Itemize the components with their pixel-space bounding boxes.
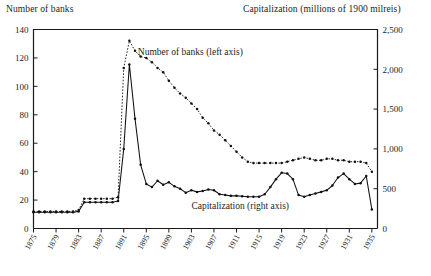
data-series-group (32, 40, 373, 214)
series-marker (213, 129, 216, 132)
series-marker (139, 164, 142, 167)
series-marker (247, 160, 250, 163)
series-marker (297, 158, 300, 161)
series-marker (156, 67, 159, 70)
right-tick-label: 1,500 (383, 104, 404, 114)
series-marker (218, 193, 221, 196)
series-marker (162, 183, 165, 186)
series-marker (77, 210, 80, 213)
series-marker (106, 201, 109, 204)
series-marker (106, 197, 109, 200)
series-marker (60, 211, 63, 214)
series-marker (292, 178, 295, 181)
series-annotation: Capitalization (right axis) (191, 201, 289, 212)
series-marker (156, 179, 159, 182)
right-tick-label: 1,000 (383, 144, 404, 154)
series-marker (303, 195, 306, 198)
series-marker (190, 102, 193, 105)
series-marker (100, 201, 103, 204)
series-marker (94, 197, 97, 200)
series-marker (309, 194, 312, 197)
series-marker (196, 191, 199, 194)
series-marker (224, 194, 227, 197)
series-marker (314, 159, 317, 162)
series-marker (185, 96, 188, 99)
series-marker (275, 162, 278, 165)
series-marker (196, 108, 199, 111)
x-tick-label: 1911 (226, 233, 242, 251)
series-marker (201, 190, 204, 193)
series-marker (168, 79, 171, 82)
series-marker (89, 201, 92, 204)
series-marker (263, 193, 266, 196)
right-tick-label: 500 (383, 184, 397, 194)
series-marker (252, 195, 255, 198)
series-marker (224, 139, 227, 142)
series-marker (190, 189, 193, 192)
series-marker (32, 211, 35, 214)
x-axis-ticks: 1875187918831887189118951899190319071911… (23, 229, 377, 252)
series-marker (326, 158, 329, 161)
x-tick-label: 1891 (113, 233, 129, 251)
series-marker (348, 178, 351, 181)
series-marker (292, 159, 295, 162)
series-line (34, 41, 372, 212)
left-axis-ticks: 020406080100120140 (15, 25, 38, 234)
series-marker (134, 50, 137, 53)
series-marker (331, 184, 334, 187)
series-marker (371, 208, 374, 211)
series-marker (38, 211, 41, 214)
series-marker (235, 150, 238, 153)
series-marker (342, 159, 345, 162)
series-marker (162, 71, 165, 74)
series-marker (337, 176, 340, 179)
left-tick-label: 120 (15, 53, 29, 63)
series-marker (122, 148, 125, 151)
series-marker (185, 191, 188, 194)
series-marker (320, 159, 323, 162)
series-marker (151, 186, 154, 189)
series-marker (258, 195, 261, 198)
x-tick-label: 1915 (249, 233, 265, 251)
series-marker (297, 194, 300, 197)
series-marker (263, 162, 266, 165)
series-marker (173, 87, 176, 90)
x-tick-label: 1887 (91, 233, 107, 251)
series-marker (179, 187, 182, 190)
x-tick-label: 1875 (23, 233, 39, 251)
series-marker (128, 40, 131, 43)
series-marker (365, 162, 368, 165)
series-marker (342, 172, 345, 175)
series-marker (280, 172, 283, 175)
series-marker (365, 175, 368, 178)
series-marker (173, 185, 176, 188)
left-tick-label: 20 (20, 195, 30, 205)
series-marker (111, 197, 114, 200)
series-marker (235, 195, 238, 198)
series-marker (134, 117, 137, 120)
x-tick-label: 1931 (339, 233, 355, 251)
series-marker (83, 201, 86, 204)
right-tick-label: 0 (383, 224, 388, 234)
series-marker (94, 201, 97, 204)
series-marker (269, 186, 272, 189)
series-marker (348, 160, 351, 163)
x-tick-label: 1935 (361, 233, 377, 251)
series-marker (314, 192, 317, 195)
series-marker (111, 201, 114, 204)
x-tick-label: 1907 (203, 233, 219, 251)
series-marker (151, 61, 154, 64)
series-marker (55, 211, 58, 214)
left-tick-label: 0 (24, 224, 29, 234)
series-marker (44, 211, 47, 214)
series-marker (207, 122, 210, 125)
series-marker (303, 156, 306, 159)
series-marker (230, 195, 233, 198)
left-tick-label: 140 (15, 25, 29, 35)
series-marker (66, 211, 69, 214)
left-tick-label: 80 (20, 110, 30, 120)
series-marker (230, 145, 233, 148)
x-tick-label: 1899 (158, 233, 174, 251)
x-tick-label: 1903 (181, 233, 197, 251)
series-marker (241, 195, 244, 198)
